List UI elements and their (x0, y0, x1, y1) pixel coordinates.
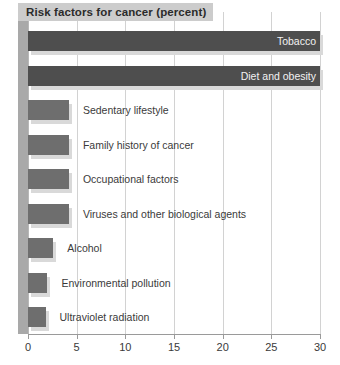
bar-label: Sedentary lifestyle (83, 104, 169, 116)
bar-fill[interactable] (28, 169, 69, 189)
tick-mark-15 (174, 334, 175, 339)
chart-title-box: Risk factors for cancer (percent) (18, 3, 213, 21)
bar-label: Occupational factors (83, 173, 179, 185)
tick-label-0: 0 (25, 341, 31, 353)
bar-label: Ultraviolet radiation (60, 311, 150, 323)
tick-label-15: 15 (168, 341, 180, 353)
tick-mark-0 (28, 334, 29, 339)
tick-label-20: 20 (217, 341, 229, 353)
bar-row[interactable]: Sedentary lifestyle (28, 100, 320, 120)
bar-row[interactable]: Environmental pollution (28, 273, 320, 293)
page-title: Risk factors for cancer (percent) (26, 6, 206, 18)
tick-mark-5 (77, 334, 78, 339)
tick-label-25: 25 (265, 341, 277, 353)
bar-label: Environmental pollution (61, 277, 170, 289)
bar-row[interactable]: Tobacco (28, 31, 320, 51)
tick-mark-25 (271, 334, 272, 339)
bar-row[interactable]: Ultraviolet radiation (28, 307, 320, 327)
bar-row[interactable]: Alcohol (28, 238, 320, 258)
bar-row[interactable]: Occupational factors (28, 169, 320, 189)
tick-label-30: 30 (314, 341, 326, 353)
bars-group: TobaccoDiet and obesitySedentary lifesty… (28, 12, 320, 334)
bar-label: Tobacco (277, 35, 316, 47)
bar-row[interactable]: Diet and obesity (28, 66, 320, 86)
bar-label: Diet and obesity (241, 70, 316, 82)
bar-fill[interactable] (28, 273, 47, 293)
bar-label: Viruses and other biological agents (83, 208, 246, 220)
tick-mark-30 (320, 334, 321, 339)
bar-row[interactable]: Viruses and other biological agents (28, 204, 320, 224)
chart-container: Risk factors for cancer (percent) Tobacc… (0, 0, 340, 365)
axis-band (18, 12, 28, 334)
tick-mark-10 (125, 334, 126, 339)
bar-row[interactable]: Family history of cancer (28, 135, 320, 155)
bar-fill[interactable] (28, 135, 69, 155)
bar-fill[interactable] (28, 204, 69, 224)
bar-label: Alcohol (67, 242, 101, 254)
tick-label-10: 10 (119, 341, 131, 353)
plot-area: TobaccoDiet and obesitySedentary lifesty… (28, 12, 320, 334)
bar-fill[interactable] (28, 238, 53, 258)
gridline-30 (320, 12, 321, 334)
bar-label: Family history of cancer (83, 139, 194, 151)
tick-label-5: 5 (74, 341, 80, 353)
tick-mark-20 (223, 334, 224, 339)
bar-fill[interactable] (28, 100, 69, 120)
bar-fill[interactable] (28, 307, 46, 327)
